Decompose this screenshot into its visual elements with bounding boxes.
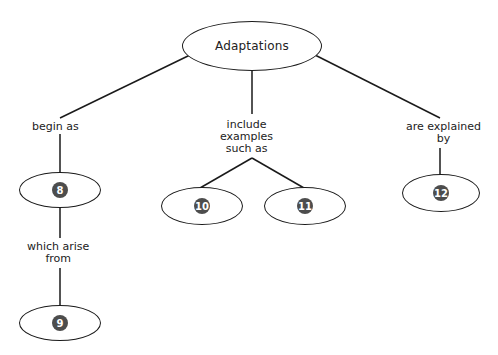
node-8: 8 <box>19 172 101 208</box>
link-which-arise-from: which arise from <box>25 240 91 266</box>
node-9: 9 <box>19 305 101 341</box>
number-badge-9: 9 <box>52 315 68 331</box>
number-badge-11: 11 <box>297 198 313 214</box>
root-label: Adaptations <box>215 39 289 53</box>
link-are-explained-by: are explained by <box>404 120 483 146</box>
number-badge-10: 10 <box>194 198 210 214</box>
node-11: 11 <box>264 187 346 225</box>
root-node-adaptations: Adaptations <box>182 21 322 71</box>
number-badge-8: 8 <box>52 182 68 198</box>
link-include-examples: include examples such as <box>218 118 275 156</box>
node-10: 10 <box>161 187 243 225</box>
number-badge-12: 12 <box>433 185 449 201</box>
link-begin-as: begin as <box>30 120 81 134</box>
node-12: 12 <box>402 174 480 212</box>
